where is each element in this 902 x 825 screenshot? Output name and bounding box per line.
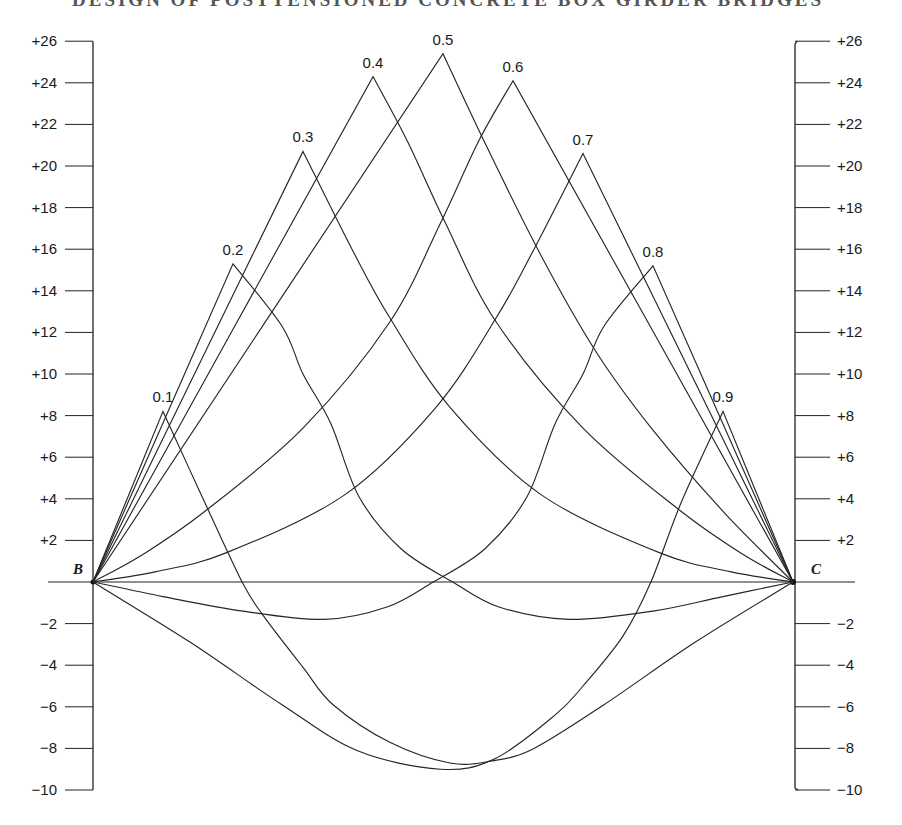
peak-label-0-7: 0.7 <box>573 131 594 148</box>
right-tick-label: +6 <box>837 448 854 465</box>
left-tick-label: +14 <box>32 282 57 299</box>
right-tick-label: +22 <box>837 115 862 132</box>
peak-label-0-3: 0.3 <box>293 128 314 145</box>
left-tick-label: +18 <box>32 199 57 216</box>
left-tick-label: +12 <box>32 323 57 340</box>
axes: +26+24+22+20+18+16+14+12+10+8+6+4+2−2−4−… <box>32 32 863 798</box>
influence-line-0-4 <box>93 77 793 582</box>
right-tick-label: +2 <box>837 531 854 548</box>
peak-label-0-2: 0.2 <box>223 241 244 258</box>
influence-line-0-5 <box>93 54 793 582</box>
left-tick-label: +16 <box>32 240 57 257</box>
right-tick-label: +8 <box>837 407 854 424</box>
left-tick-label: +26 <box>32 32 57 49</box>
peak-label-0-8: 0.8 <box>643 243 664 260</box>
left-tick-label: −10 <box>32 781 57 798</box>
support-label-b: B <box>72 561 83 577</box>
peak-label-0-9: 0.9 <box>713 388 734 405</box>
influence-line-0-8 <box>93 266 793 620</box>
left-tick-label: +24 <box>32 74 57 91</box>
right-tick-label: +10 <box>837 365 862 382</box>
influence-line-chart: +26+24+22+20+18+16+14+12+10+8+6+4+2−2−4−… <box>0 0 902 825</box>
left-tick-label: +6 <box>40 448 57 465</box>
series-lines <box>93 54 793 770</box>
right-tick-label: +16 <box>837 240 862 257</box>
left-tick-label: +4 <box>40 490 57 507</box>
right-tick-label: +18 <box>837 199 862 216</box>
right-tick-label: +4 <box>837 490 854 507</box>
right-tick-label: −4 <box>837 656 854 673</box>
influence-line-0-2 <box>93 264 793 620</box>
influence-line-0-9 <box>93 411 793 769</box>
right-tick-label: −6 <box>837 698 854 715</box>
left-tick-label: +2 <box>40 531 57 548</box>
left-tick-label: +10 <box>32 365 57 382</box>
right-tick-label: −2 <box>837 615 854 632</box>
labels: B C 0.10.20.30.40.50.60.70.80.9 <box>72 31 822 577</box>
left-tick-label: −2 <box>40 615 57 632</box>
peak-label-0-4: 0.4 <box>363 54 384 71</box>
right-tick-label: +14 <box>837 282 862 299</box>
peak-label-0-1: 0.1 <box>153 388 174 405</box>
influence-line-0-1 <box>93 411 793 764</box>
right-tick-label: +20 <box>837 157 862 174</box>
left-tick-label: +8 <box>40 407 57 424</box>
peak-label-0-5: 0.5 <box>433 31 454 48</box>
right-tick-label: +24 <box>837 74 862 91</box>
right-tick-label: +12 <box>837 323 862 340</box>
left-tick-label: +22 <box>32 115 57 132</box>
right-tick-label: −10 <box>837 781 862 798</box>
right-tick-label: +26 <box>837 32 862 49</box>
left-tick-label: −8 <box>40 739 57 756</box>
left-tick-label: +20 <box>32 157 57 174</box>
right-tick-label: −8 <box>837 739 854 756</box>
left-tick-label: −6 <box>40 698 57 715</box>
influence-line-0-6 <box>93 81 793 582</box>
left-tick-label: −4 <box>40 656 57 673</box>
peak-label-0-6: 0.6 <box>503 58 524 75</box>
support-label-c: C <box>811 561 822 577</box>
